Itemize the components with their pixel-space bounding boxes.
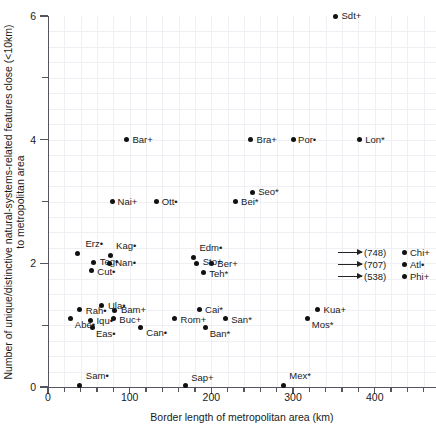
x-axis-label: Border length of metropolitan area (km): [48, 411, 436, 423]
data-point: [91, 260, 96, 265]
legend-entry: (748)Chi+: [338, 247, 436, 258]
legend-marker-dot: [402, 262, 407, 267]
legend-label: Atl•: [410, 259, 424, 270]
data-point: [357, 137, 362, 142]
x-axis-tick-minor: [341, 387, 342, 392]
gridline-horizontal: [48, 171, 436, 172]
data-point: [233, 199, 238, 204]
gridline-horizontal: [48, 294, 436, 295]
x-axis-tick-label: 0: [28, 392, 68, 403]
data-point-label: Sdt+: [342, 11, 362, 21]
data-point: [183, 383, 188, 388]
data-point: [75, 251, 80, 256]
data-point-label: Erz•: [85, 239, 103, 249]
data-point: [197, 307, 202, 312]
x-axis-tick-minor: [423, 387, 424, 392]
arrow-right-icon: [338, 252, 362, 253]
legend-marker-dot: [402, 250, 407, 255]
gridline-horizontal: [48, 109, 436, 110]
gridline-horizontal: [48, 31, 436, 32]
x-axis-tick-minor: [325, 387, 326, 392]
data-point-label: Bei*: [241, 197, 258, 207]
data-point-label: Cai*: [205, 305, 223, 315]
data-point: [138, 325, 143, 330]
gridline-horizontal: [48, 62, 436, 63]
data-point-label: San*: [231, 315, 252, 325]
y-axis-tick: [42, 77, 48, 78]
x-axis-tick-label: 400: [355, 392, 395, 403]
data-point-label: Sap+: [191, 373, 213, 383]
gridline-horizontal: [48, 186, 436, 187]
data-point-label: Kag•: [116, 241, 136, 251]
x-axis-tick-minor: [96, 387, 97, 392]
y-axis-tick: [40, 263, 48, 264]
legend-value: (748): [364, 247, 386, 258]
x-axis-tick-minor: [407, 387, 408, 392]
data-point: [201, 270, 206, 275]
x-axis-tick-label: 300: [273, 392, 313, 403]
y-axis-tick: [42, 201, 48, 202]
legend-entry: (707)Atl•: [338, 259, 436, 270]
x-axis-tick-minor: [260, 387, 261, 392]
data-point: [203, 325, 208, 330]
legend-entry: (538)Phi+: [338, 271, 436, 282]
data-point-label: Ott•: [162, 197, 178, 207]
data-point-label: Mos*: [312, 320, 334, 330]
data-point-label: Rom+: [181, 315, 207, 325]
y-axis-line: [48, 16, 49, 387]
legend-label: Chi+: [410, 247, 430, 258]
data-point-label: Sam•: [86, 371, 109, 381]
data-point: [333, 14, 338, 19]
data-point: [291, 137, 296, 142]
gridline-horizontal: [48, 47, 436, 48]
gridline-horizontal: [48, 217, 436, 218]
data-point-label: Lon*: [365, 135, 385, 145]
gridline-horizontal: [48, 341, 436, 342]
data-point-label: Edm•: [199, 243, 222, 253]
data-point: [88, 318, 93, 323]
data-point-label: Ban*: [210, 329, 231, 339]
x-axis-tick-label: 100: [110, 392, 150, 403]
y-axis-label: Number of unique/distinctive natural-sys…: [2, 22, 26, 382]
gridline-horizontal: [48, 356, 436, 357]
data-point-label: Rah•: [86, 306, 107, 316]
x-axis-tick-label: 200: [191, 392, 231, 403]
data-point: [191, 255, 196, 260]
data-point-label: Por•: [298, 135, 316, 145]
data-point-label: Teh*: [209, 269, 228, 279]
arrow-right-icon: [338, 276, 362, 277]
data-point-label: Ber+: [217, 259, 237, 269]
data-point: [250, 190, 255, 195]
x-axis-tick-minor: [243, 387, 244, 392]
arrow-right-icon: [338, 264, 362, 265]
data-point-label: Mex*: [289, 371, 311, 381]
y-axis-tick: [42, 325, 48, 326]
legend-value: (707): [364, 259, 386, 270]
x-axis-tick-minor: [162, 387, 163, 392]
gridline-horizontal: [48, 93, 436, 94]
x-axis-tick-minor: [178, 387, 179, 392]
legend-marker-dot: [402, 274, 407, 279]
y-axis-tick: [40, 139, 48, 140]
data-point-label: Cut•: [97, 267, 115, 277]
x-axis-tick-minor: [80, 387, 81, 392]
data-point-label: Bar+: [132, 135, 152, 145]
gridline-horizontal: [48, 78, 436, 79]
data-point-label: Buc+: [119, 315, 141, 325]
data-point: [194, 261, 199, 266]
data-point-label: Eas•: [96, 329, 116, 339]
y-axis-label-wrap: Number of unique/distinctive natural-sys…: [0, 0, 28, 400]
data-point-label: Kua+: [324, 305, 346, 315]
data-point: [110, 199, 115, 204]
gridline-horizontal: [48, 232, 436, 233]
legend-value: (538): [364, 271, 386, 282]
scatter-plot-figure: 0246 0100200300400 Sdt+Bar+Bra+Por•Lon*S…: [0, 0, 436, 435]
legend-label: Phi+: [410, 271, 429, 282]
data-point-label: Seo*: [258, 187, 279, 197]
gridline-horizontal: [48, 155, 436, 156]
data-point-label: Can•: [146, 328, 167, 338]
data-point-label: Nan•: [115, 258, 136, 268]
gridline-horizontal: [48, 124, 436, 125]
data-point: [281, 383, 286, 388]
data-point-label: Nai+: [118, 197, 138, 207]
